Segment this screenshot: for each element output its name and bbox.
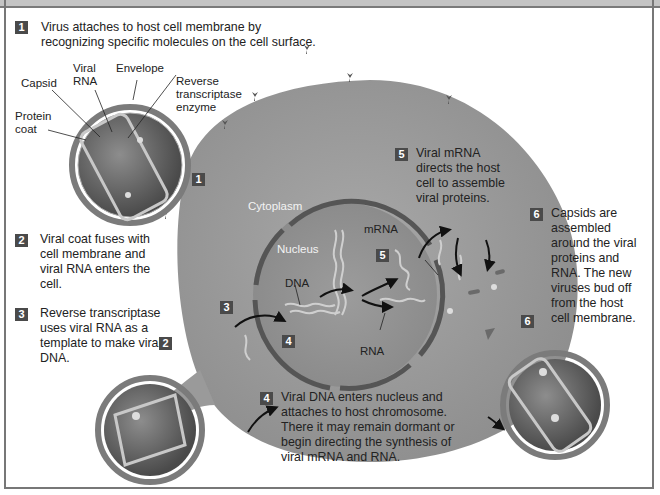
step-3-line: Reverse transcriptase bbox=[40, 306, 161, 321]
step-5-line: cell to assemble bbox=[416, 176, 505, 191]
step-4-line: There it may remain dormant or bbox=[281, 420, 455, 435]
marker-6: 6 bbox=[521, 315, 534, 328]
nucleus-label: Nucleus bbox=[277, 243, 319, 256]
step-1-text: Virus attaches to host cell membrane by … bbox=[41, 20, 316, 50]
reverse-transcriptase-label-line: Reverse bbox=[176, 75, 242, 88]
step-5-line: directs the host bbox=[416, 161, 505, 176]
step-6-line: around the viral bbox=[551, 236, 636, 251]
entering-virus bbox=[98, 378, 202, 482]
step-2-line: viral RNA enters the bbox=[40, 262, 150, 277]
protein-coat-label: Protein coat bbox=[15, 110, 51, 136]
step-6-line: RNA. The new bbox=[551, 266, 636, 281]
viral-rna-label-line: RNA bbox=[73, 75, 97, 88]
reverse-transcriptase-label-line: enzyme bbox=[176, 101, 242, 114]
cytoplasm-label: Cytoplasm bbox=[248, 200, 302, 213]
step-5-badge: 5 bbox=[395, 148, 408, 161]
step-5-line: viral proteins. bbox=[416, 191, 505, 206]
budding-virus bbox=[503, 353, 607, 457]
step-2-text: Viral coat fuses with cell membrane and … bbox=[40, 232, 150, 292]
step-3-badge: 3 bbox=[15, 308, 28, 321]
step-3-line: DNA. bbox=[40, 351, 161, 366]
marker-5: 5 bbox=[376, 249, 389, 262]
reverse-transcriptase-label: Reverse transcriptase enzyme bbox=[176, 75, 242, 114]
protein-coat-label-line: coat bbox=[15, 123, 51, 136]
step-4-line: viral mRNA and RNA. bbox=[281, 450, 455, 465]
step-6-text: Capsids are assembled around the viral p… bbox=[551, 206, 636, 326]
capsid-label: Capsid bbox=[21, 77, 57, 90]
step-4-text: Viral DNA enters nucleus and attaches to… bbox=[281, 390, 455, 465]
step-4-badge: 4 bbox=[260, 392, 273, 405]
step-6-line: from the host bbox=[551, 296, 636, 311]
marker-4: 4 bbox=[282, 335, 295, 348]
step-2-line: cell. bbox=[40, 277, 150, 292]
marker-1: 1 bbox=[192, 173, 205, 186]
marker-2: 2 bbox=[159, 337, 172, 350]
step-2-line: Viral coat fuses with bbox=[40, 232, 150, 247]
protein-coat-label-line: Protein bbox=[15, 110, 51, 123]
step-2-line: cell membrane and bbox=[40, 247, 150, 262]
step-6-line: cell membrane. bbox=[551, 311, 636, 326]
dna-label: DNA bbox=[285, 277, 309, 290]
step-6-line: proteins and bbox=[551, 251, 636, 266]
reverse-transcriptase-label-line: transcriptase bbox=[176, 88, 242, 101]
step-3-text: Reverse transcriptase uses viral RNA as … bbox=[40, 306, 161, 366]
step-4-line: attaches to host chromosome. bbox=[281, 405, 455, 420]
step-4-line: begin directing the synthesis of bbox=[281, 435, 455, 450]
step-5-line: Viral mRNA bbox=[416, 146, 505, 161]
free-virus bbox=[72, 107, 188, 223]
step-1-badge: 1 bbox=[15, 21, 28, 34]
step-1-line: Virus attaches to host cell membrane by bbox=[41, 20, 316, 35]
step-6-line: assembled bbox=[551, 221, 636, 236]
step-6-line: viruses bud off bbox=[551, 281, 636, 296]
step-1-line: recognizing specific molecules on the ce… bbox=[41, 35, 316, 50]
step-2-badge: 2 bbox=[15, 234, 28, 247]
step-4-line: Viral DNA enters nucleus and bbox=[281, 390, 455, 405]
viral-rna-label-line: Viral bbox=[73, 62, 97, 75]
step-5-text: Viral mRNA directs the host cell to asse… bbox=[416, 146, 505, 206]
envelope-label: Envelope bbox=[116, 62, 164, 75]
rna-label: RNA bbox=[360, 345, 384, 358]
marker-3: 3 bbox=[220, 301, 233, 314]
step-6-line: Capsids are bbox=[551, 206, 636, 221]
step-3-line: template to make viral bbox=[40, 336, 161, 351]
mrna-label: mRNA bbox=[364, 223, 398, 236]
viral-rna-label: Viral RNA bbox=[73, 62, 97, 88]
step-3-line: uses viral RNA as a bbox=[40, 321, 161, 336]
step-6-badge: 6 bbox=[530, 208, 543, 221]
